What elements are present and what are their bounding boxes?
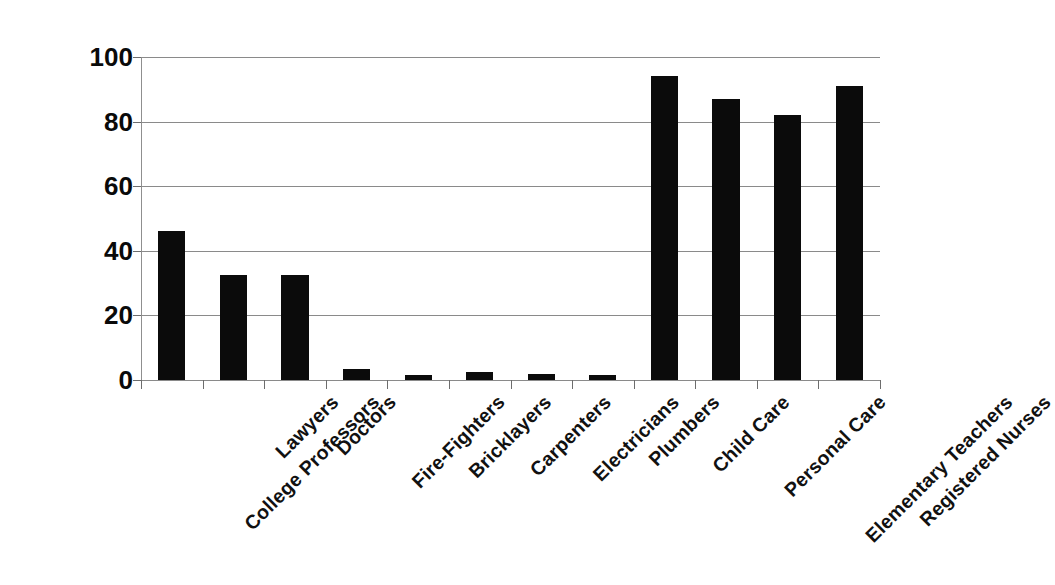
- y-tick-label: 20: [1, 302, 133, 328]
- x-tick-mark: [326, 380, 327, 389]
- bar: [712, 99, 739, 380]
- y-tick-label: 80: [1, 109, 133, 135]
- gridline-20: [141, 315, 880, 316]
- y-tick-label: 60: [1, 173, 133, 199]
- bar: [158, 231, 185, 380]
- x-tick-mark: [264, 380, 265, 389]
- x-tick-mark: [818, 380, 819, 389]
- y-tick-label: 0: [1, 367, 133, 393]
- x-axis-label: Personal Care: [781, 392, 889, 500]
- y-tick-mark: [133, 186, 141, 187]
- y-tick-mark: [133, 315, 141, 316]
- bar: [220, 275, 247, 380]
- x-tick-mark: [387, 380, 388, 389]
- gridline-40: [141, 251, 880, 252]
- x-tick-mark: [695, 380, 696, 389]
- x-tick-mark: [511, 380, 512, 389]
- x-tick-mark: [634, 380, 635, 389]
- y-axis-spine: [141, 57, 142, 380]
- y-tick-mark: [133, 380, 141, 381]
- y-tick-mark: [133, 251, 141, 252]
- y-tick-mark: [133, 57, 141, 58]
- plot-area: 020406080100: [141, 57, 880, 380]
- gridline-100: [141, 57, 880, 58]
- x-tick-mark: [572, 380, 573, 389]
- x-tick-mark: [449, 380, 450, 389]
- bar: [836, 86, 863, 380]
- bar: [651, 76, 678, 380]
- y-tick-label: 40: [1, 238, 133, 264]
- bar: [281, 275, 308, 380]
- y-tick-mark: [133, 122, 141, 123]
- bar: [343, 369, 370, 380]
- x-tick-mark: [757, 380, 758, 389]
- bar: [589, 375, 616, 380]
- y-tick-label: 100: [1, 44, 133, 70]
- gridline-60: [141, 186, 880, 187]
- x-tick-mark: [203, 380, 204, 389]
- x-axis-label: Elementary Teachers: [862, 392, 1016, 546]
- x-tick-mark: [141, 380, 142, 389]
- x-tick-mark: [880, 380, 881, 389]
- bar: [405, 375, 432, 380]
- gridline-80: [141, 122, 880, 123]
- bar: [466, 372, 493, 380]
- bar: [774, 115, 801, 380]
- x-axis-labels-group: College ProfessorsLawyersDoctorsFire-Fig…: [141, 392, 880, 582]
- bar: [528, 374, 555, 380]
